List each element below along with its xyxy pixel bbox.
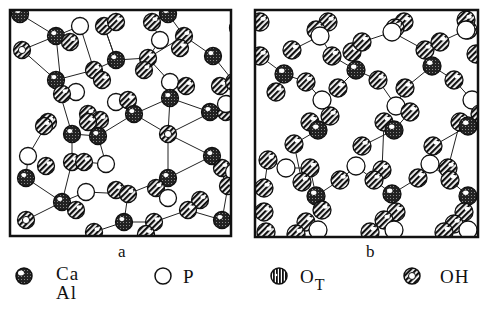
legend-ot: OT	[300, 267, 326, 287]
ca-atom	[205, 48, 222, 65]
o-atom	[435, 223, 453, 241]
p-atom	[313, 91, 331, 109]
o-atom	[236, 118, 253, 135]
o-atom	[441, 171, 459, 189]
o-atom	[120, 186, 137, 203]
p-atom	[78, 184, 95, 201]
ca-atom	[108, 52, 125, 69]
legend-ca-label: Ca	[56, 264, 79, 283]
o-atom	[467, 45, 485, 63]
o-atom	[297, 73, 315, 91]
o-atom	[331, 171, 349, 189]
o-atom	[257, 223, 275, 241]
panel-a-disordered-structure	[10, 6, 253, 243]
legend-oh-label: OH	[440, 267, 469, 286]
p-atom	[72, 18, 89, 35]
ca-atom	[385, 121, 403, 139]
o-atom	[108, 14, 125, 31]
ca-atom	[12, 6, 29, 23]
o-atom	[251, 47, 269, 65]
legend-ot-symbol-icon	[271, 268, 287, 284]
p-atom	[98, 156, 115, 173]
o-atom	[144, 14, 161, 31]
o-atom	[287, 225, 305, 243]
p-atom	[383, 23, 401, 41]
o-atom	[361, 223, 379, 241]
legend-p: P	[183, 267, 195, 286]
o-atom	[255, 179, 273, 197]
o-atom	[396, 79, 414, 97]
o-atom	[259, 151, 277, 169]
o-atom	[285, 135, 303, 153]
o-atom	[94, 72, 111, 89]
ca-atom	[214, 212, 231, 229]
o-atom	[329, 79, 347, 97]
ca-atom	[383, 185, 401, 203]
o-atom	[251, 13, 269, 31]
o-atom	[353, 33, 371, 51]
p-atom	[277, 159, 295, 177]
o-atom	[62, 34, 79, 51]
p-atom	[457, 21, 475, 39]
oh-atom	[160, 126, 177, 143]
panel-b-ordered-structure	[251, 10, 489, 243]
o-atom	[54, 86, 71, 103]
ca-atom	[126, 106, 143, 123]
o-atom	[424, 137, 442, 155]
o-atom	[445, 71, 463, 89]
ca-atom	[160, 6, 177, 23]
panel-a-label: a	[118, 242, 126, 262]
legend-ca-al: Ca Al	[56, 264, 79, 302]
o-atom	[178, 78, 195, 95]
p-atom	[160, 190, 177, 207]
ca-atom	[459, 117, 477, 135]
o-atom	[136, 62, 153, 79]
o-atom	[226, 74, 243, 91]
p-atom	[162, 74, 179, 91]
o-atom	[409, 169, 427, 187]
p-atom	[152, 32, 169, 49]
ca-atom	[459, 187, 477, 205]
ca-atom	[423, 57, 441, 75]
legend-p-label: P	[183, 267, 195, 286]
panel-b-label: b	[366, 242, 375, 262]
o-atom	[220, 178, 237, 195]
o-atom	[431, 33, 449, 51]
ca-atom	[309, 121, 327, 139]
o-atom	[138, 226, 155, 243]
o-atom	[323, 47, 341, 65]
o-atom	[255, 203, 273, 221]
ca-atom	[90, 128, 107, 145]
legend-ca-al-symbol-icon	[16, 268, 32, 284]
o-atom	[76, 154, 93, 171]
ca-atom	[202, 104, 219, 121]
p-atom	[347, 157, 365, 175]
o-atom	[369, 71, 387, 89]
legend-oh: OH	[440, 267, 469, 286]
ca-atom	[347, 61, 365, 79]
o-atom	[172, 40, 189, 57]
ca-atom	[116, 214, 133, 231]
ca-atom	[275, 65, 293, 83]
p-atom	[311, 27, 329, 45]
legend-al-label: Al	[56, 283, 79, 302]
o-atom	[365, 171, 383, 189]
oh-atom	[18, 212, 35, 229]
o-atom	[283, 41, 301, 59]
o-atom	[180, 202, 197, 219]
o-atom	[36, 118, 53, 135]
o-atom	[267, 83, 285, 101]
legend-p-symbol-icon	[155, 268, 171, 284]
ca-atom	[64, 126, 81, 143]
o-atom	[293, 173, 311, 191]
o-atom	[86, 224, 103, 241]
legend-oh-symbol-icon	[404, 268, 420, 284]
p-atom	[20, 148, 37, 165]
o-atom	[313, 201, 331, 219]
ca-atom	[18, 170, 35, 187]
legend-t-subscript: T	[315, 276, 326, 293]
oh-atom	[14, 42, 31, 59]
ca-atom	[162, 90, 179, 107]
o-atom	[401, 103, 419, 121]
o-atom	[68, 202, 85, 219]
